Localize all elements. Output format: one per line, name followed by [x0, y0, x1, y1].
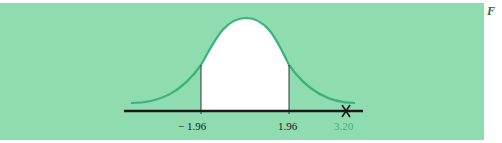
shaded-central-region [201, 18, 289, 111]
figure-corner-letter: F [487, 4, 495, 19]
normal-curve-diagram [0, 0, 502, 143]
test-statistic-label: 3.20 [334, 120, 353, 132]
right-critical-label: 1.96 [278, 120, 297, 132]
left-critical-label: − 1.96 [178, 120, 206, 132]
